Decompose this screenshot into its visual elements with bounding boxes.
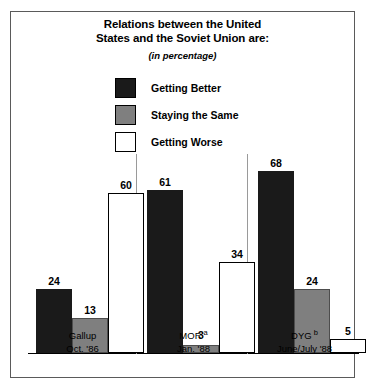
- chart-frame: Relations between the United States and …: [10, 11, 355, 378]
- bar-group-mor: 61 3 34 MORa Jan. '88: [140, 60, 247, 353]
- group-source-label-dyg: DYG: [291, 330, 312, 341]
- group-caption-dyg: DYGb June/July '88: [251, 326, 358, 355]
- bar-gallup-getting-better[interactable]: 24: [36, 60, 72, 353]
- bar-group-dyg: 68 24 5 DYGb June/July '88: [251, 60, 358, 353]
- bar-dyg-getting-better[interactable]: 68: [258, 60, 294, 353]
- bar-gallup-getting-worse[interactable]: 60: [108, 60, 144, 353]
- bar-value-gallup-staying-the-same: 13: [72, 304, 108, 316]
- bar-mor-getting-worse[interactable]: 34: [219, 60, 255, 353]
- group-date-gallup: Oct. '86: [29, 342, 136, 355]
- group-source-gallup: Gallup: [29, 329, 136, 342]
- bar-value-gallup-getting-better: 24: [36, 275, 72, 287]
- group-source-label-mor: MOR: [179, 330, 201, 341]
- bar-group-gallup: 24 13 60 Gallup Oct. '86: [29, 60, 136, 353]
- group-date-dyg: June/July '88: [251, 342, 358, 355]
- bar-value-mor-getting-better: 61: [147, 176, 183, 188]
- bar-mor-staying-the-same[interactable]: 3: [183, 60, 219, 353]
- group-source-label-gallup: Gallup: [69, 330, 96, 341]
- group-source-dyg: DYGb: [251, 326, 358, 342]
- group-date-mor: Jan. '88: [140, 342, 247, 355]
- group-source-mor: MORa: [140, 326, 247, 342]
- chart-screenshot: Relations between the United States and …: [0, 0, 367, 391]
- bar-mor-getting-better[interactable]: 61: [147, 60, 183, 353]
- group-footnote-mor: a: [204, 328, 208, 337]
- group-footnote-dyg: b: [314, 328, 318, 337]
- bar-value-gallup-getting-worse: 60: [108, 179, 144, 191]
- group-caption-mor: MORa Jan. '88: [140, 326, 247, 355]
- bar-gallup-staying-the-same[interactable]: 13: [72, 60, 108, 353]
- bar-value-dyg-staying-the-same: 24: [294, 275, 330, 287]
- bar-value-mor-getting-worse: 34: [219, 248, 255, 260]
- bar-dyg-getting-worse[interactable]: 5: [330, 60, 366, 353]
- plot-area: 24 13 60 Gallup Oct. '86: [22, 24, 365, 389]
- bar-value-dyg-getting-better: 68: [258, 157, 294, 169]
- bar-dyg-staying-the-same[interactable]: 24: [294, 60, 330, 353]
- group-caption-gallup: Gallup Oct. '86: [29, 329, 136, 355]
